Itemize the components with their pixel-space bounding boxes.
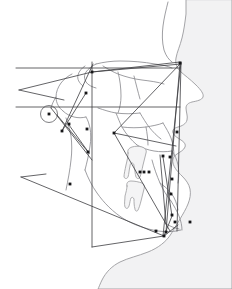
landmark-occlusal-posterior bbox=[143, 171, 146, 174]
landmark-articulare bbox=[86, 128, 89, 131]
landmark-menton bbox=[165, 231, 168, 234]
landmark-soft-pogonion bbox=[189, 221, 192, 224]
landmark-ptm bbox=[179, 62, 182, 65]
landmark-gnathion bbox=[174, 221, 177, 224]
landmark-orbitale bbox=[87, 151, 90, 154]
landmark-upper-molar-distal bbox=[148, 171, 151, 174]
cephalometric-tracing-image bbox=[0, 0, 232, 289]
landmark-a-point bbox=[113, 132, 116, 135]
landmark-ans bbox=[176, 131, 179, 134]
landmark-nasion bbox=[91, 71, 94, 74]
landmark-upper-incisor-tip bbox=[169, 156, 172, 159]
landmark-mandibular-plane-point bbox=[69, 183, 72, 186]
landmark-ramus-point bbox=[68, 123, 71, 126]
landmark-porion bbox=[61, 130, 64, 133]
cephalometric-canvas bbox=[0, 0, 232, 289]
landmark-b-point bbox=[170, 193, 173, 196]
landmark-go-construct bbox=[155, 230, 158, 233]
landmark-condylion bbox=[85, 92, 88, 95]
landmark-sella bbox=[48, 113, 51, 116]
landmark-gonion bbox=[163, 235, 166, 238]
landmark-lower-incisor-tip bbox=[171, 178, 174, 181]
landmark-pns bbox=[162, 155, 165, 158]
landmark-pogonion bbox=[171, 214, 174, 217]
landmark-upper-molar-mesial bbox=[139, 171, 142, 174]
